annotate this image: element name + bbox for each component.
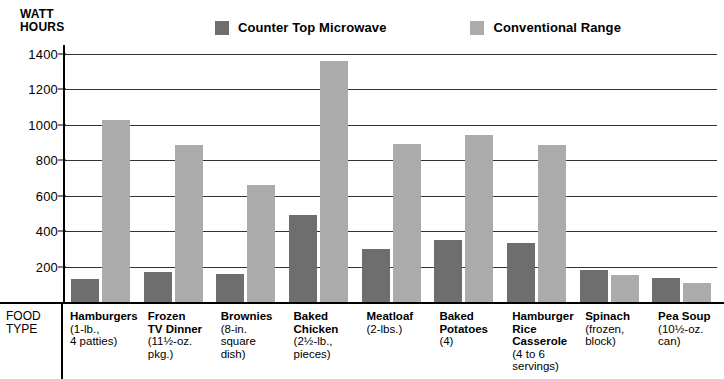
y-axis-title-line2: HOURS bbox=[20, 21, 64, 34]
legend-swatch-conventional bbox=[470, 21, 484, 35]
y-axis-tickmark-800 bbox=[58, 160, 66, 161]
category-cells: Hamburgers(1-lb., 4 patties)Frozen TV Di… bbox=[63, 304, 724, 379]
category-detail: (10½-oz. can) bbox=[658, 323, 721, 348]
bar bbox=[144, 272, 172, 302]
bars-container bbox=[63, 45, 717, 310]
y-axis-tick-400: 400 bbox=[4, 224, 58, 239]
bar bbox=[683, 283, 711, 302]
bar-group bbox=[136, 45, 209, 302]
bar-groups bbox=[63, 45, 717, 302]
y-axis-tick-1200: 1200 bbox=[4, 82, 58, 97]
y-axis-tickmark-400 bbox=[58, 231, 66, 232]
legend-label-microwave: Counter Top Microwave bbox=[238, 20, 386, 35]
y-axis-tickmark-1200 bbox=[58, 89, 66, 90]
category-detail: (2½-lb., pieces) bbox=[294, 335, 357, 360]
category-cell: Spinach(frozen, block) bbox=[578, 304, 651, 379]
category-cell: Brownies(8-in. square dish) bbox=[214, 304, 287, 379]
chart-legend: Counter Top Microwave Conventional Range bbox=[215, 20, 621, 35]
bar bbox=[434, 240, 462, 302]
bar bbox=[320, 61, 348, 302]
category-detail: (4) bbox=[439, 335, 502, 348]
bar-group bbox=[644, 45, 717, 302]
category-cell: Baked Potatoes(4) bbox=[432, 304, 505, 379]
chart-page: WATT HOURS Counter Top Microwave Convent… bbox=[0, 0, 724, 379]
legend-label-conventional: Conventional Range bbox=[493, 20, 620, 35]
y-axis-tick-200: 200 bbox=[4, 259, 58, 274]
bar-group bbox=[426, 45, 499, 302]
food-type-line2: TYPE bbox=[6, 323, 61, 336]
category-name: Pea Soup bbox=[658, 310, 721, 323]
y-axis-tick-1000: 1000 bbox=[4, 117, 58, 132]
y-axis-tick-600: 600 bbox=[4, 188, 58, 203]
bar-group bbox=[354, 45, 427, 302]
category-table: FOOD TYPE Hamburgers(1-lb., 4 patties)Fr… bbox=[0, 302, 724, 379]
category-cell: Meatloaf(2-lbs.) bbox=[359, 304, 432, 379]
y-axis-ticks: 140012001000800600400200 bbox=[0, 45, 58, 310]
y-axis-tick-1400: 1400 bbox=[4, 46, 58, 61]
category-detail: (4 to 6 servings) bbox=[512, 348, 575, 373]
bar bbox=[216, 274, 244, 302]
category-name: Frozen TV Dinner bbox=[148, 310, 211, 335]
bar bbox=[538, 145, 566, 302]
bar bbox=[465, 135, 493, 302]
category-detail: (frozen, block) bbox=[585, 323, 648, 348]
category-name: Spinach bbox=[585, 310, 648, 323]
bar bbox=[289, 215, 317, 302]
bar-group bbox=[499, 45, 572, 302]
legend-swatch-microwave bbox=[215, 21, 229, 35]
bar bbox=[175, 145, 203, 302]
category-name: Hamburger Rice Casserole bbox=[512, 310, 575, 348]
bar bbox=[362, 249, 390, 302]
category-detail: (11½-oz. pkg.) bbox=[148, 335, 211, 360]
category-detail: (1-lb., 4 patties) bbox=[70, 323, 138, 348]
food-type-header: FOOD TYPE bbox=[0, 304, 63, 379]
y-axis-tickmark-1400 bbox=[58, 53, 66, 54]
category-cell: Pea Soup(10½-oz. can) bbox=[651, 304, 724, 379]
bar bbox=[247, 185, 275, 302]
legend-item-microwave: Counter Top Microwave bbox=[215, 20, 386, 35]
category-name: Meatloaf bbox=[366, 310, 429, 323]
category-name: Baked Potatoes bbox=[439, 310, 502, 335]
bar bbox=[71, 279, 99, 302]
category-detail: (8-in. square dish) bbox=[221, 323, 284, 361]
bar bbox=[580, 270, 608, 302]
bar bbox=[507, 243, 535, 302]
category-cell: Hamburgers(1-lb., 4 patties) bbox=[63, 304, 141, 379]
legend-item-conventional: Conventional Range bbox=[470, 20, 620, 35]
plot-area: 140012001000800600400200 bbox=[0, 45, 724, 310]
bar-group bbox=[208, 45, 281, 302]
category-cell: Frozen TV Dinner(11½-oz. pkg.) bbox=[141, 304, 214, 379]
bar-group bbox=[281, 45, 354, 302]
y-axis-tickmark-200 bbox=[58, 266, 66, 267]
category-cell: Baked Chicken(2½-lb., pieces) bbox=[287, 304, 360, 379]
category-cell: Hamburger Rice Casserole(4 to 6 servings… bbox=[505, 304, 578, 379]
y-axis-tickmark-1000 bbox=[58, 124, 66, 125]
bar bbox=[611, 275, 639, 302]
category-name: Baked Chicken bbox=[294, 310, 357, 335]
bar bbox=[652, 278, 680, 302]
y-axis-title: WATT HOURS bbox=[20, 8, 64, 34]
bar bbox=[393, 144, 421, 302]
category-detail: (2-lbs.) bbox=[366, 323, 429, 336]
bar bbox=[102, 120, 130, 302]
y-axis-tick-800: 800 bbox=[4, 153, 58, 168]
y-axis-tickmark-600 bbox=[58, 195, 66, 196]
category-name: Hamburgers bbox=[70, 310, 138, 323]
bar-group bbox=[63, 45, 136, 302]
bar-group bbox=[572, 45, 645, 302]
category-name: Brownies bbox=[221, 310, 284, 323]
